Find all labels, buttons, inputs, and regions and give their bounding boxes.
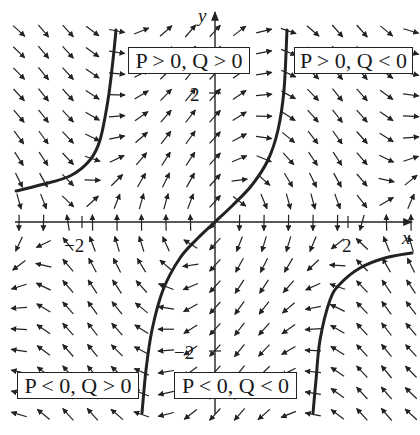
field-arrow xyxy=(284,173,292,187)
field-arrow xyxy=(11,284,26,289)
field-arrow xyxy=(333,110,343,123)
field-arrow xyxy=(261,194,267,209)
field-arrow xyxy=(135,112,148,121)
field-arrow xyxy=(381,387,391,399)
field-arrow xyxy=(184,304,198,312)
field-arrow xyxy=(188,194,194,209)
field-arrow xyxy=(405,409,417,420)
field-arrow xyxy=(357,409,368,421)
field-arrow xyxy=(158,413,174,417)
field-arrow xyxy=(334,173,342,187)
field-arrow xyxy=(306,283,321,290)
field-arrow xyxy=(41,194,47,209)
region-label-p-pos-q-pos: P > 0, Q > 0 xyxy=(128,47,250,74)
field-arrow xyxy=(14,89,25,101)
field-arrow xyxy=(86,48,99,57)
field-arrow xyxy=(282,325,295,334)
field-arrow xyxy=(39,131,48,144)
field-arrow xyxy=(331,388,344,397)
field-arrow xyxy=(406,302,416,315)
field-arrow xyxy=(382,344,392,356)
field-arrow xyxy=(357,174,367,186)
field-arrow xyxy=(37,346,50,356)
field-arrow xyxy=(183,284,198,290)
field-arrow xyxy=(305,392,321,394)
field-arrow xyxy=(158,371,174,374)
field-arrow xyxy=(111,345,122,356)
field-arrow xyxy=(262,236,267,251)
field-arrow xyxy=(109,136,125,139)
field-arrow xyxy=(357,281,368,293)
field-arrow xyxy=(63,259,73,271)
field-arrow xyxy=(311,194,315,209)
field-arrow xyxy=(308,131,318,144)
field-arrow xyxy=(286,194,290,209)
field-arrow xyxy=(184,410,197,420)
field-arrow xyxy=(407,258,414,272)
field-arrow xyxy=(333,89,343,101)
field-arrow xyxy=(305,306,321,309)
field-arrow xyxy=(260,258,267,272)
field-arrow xyxy=(87,196,99,207)
field-arrow xyxy=(184,325,197,334)
field-arrow xyxy=(233,90,246,99)
field-arrow xyxy=(38,67,48,79)
field-arrow xyxy=(236,258,244,272)
field-arrow xyxy=(357,153,367,165)
field-arrow xyxy=(90,237,96,252)
field-arrow xyxy=(282,303,294,313)
field-arrow xyxy=(63,25,74,37)
field-arrow xyxy=(405,175,417,185)
field-arrow xyxy=(110,155,124,162)
field-arrow xyxy=(307,89,318,100)
field-arrow xyxy=(357,132,368,144)
field-arrow xyxy=(382,280,391,293)
field-arrow xyxy=(135,91,149,99)
field-arrow xyxy=(408,194,414,209)
field-arrow xyxy=(357,195,367,208)
field-arrow xyxy=(331,410,344,420)
field-arrow xyxy=(63,408,74,420)
lower-right-curve xyxy=(313,253,412,413)
field-arrow xyxy=(281,411,296,417)
x-tick-label-neg2: −2 xyxy=(64,236,84,255)
field-arrow xyxy=(160,26,172,37)
field-arrow xyxy=(158,350,174,351)
field-arrow xyxy=(37,325,50,334)
field-arrow xyxy=(111,409,123,419)
field-arrow xyxy=(357,323,368,335)
field-arrow xyxy=(256,29,272,33)
field-arrow xyxy=(13,47,25,58)
field-arrow xyxy=(235,323,245,336)
field-arrow xyxy=(186,131,195,144)
field-arrow xyxy=(305,371,321,373)
field-arrow xyxy=(63,89,74,101)
field-arrow xyxy=(357,89,368,101)
field-arrow xyxy=(234,408,244,420)
field-arrow xyxy=(88,323,98,336)
field-arrow xyxy=(407,280,416,293)
field-arrow xyxy=(88,301,97,314)
field-arrow xyxy=(37,409,49,419)
field-arrow xyxy=(384,237,390,252)
field-arrow xyxy=(310,173,317,187)
field-arrow xyxy=(63,110,74,122)
field-arrow xyxy=(39,89,49,101)
field-arrow xyxy=(63,281,73,293)
field-arrow xyxy=(13,26,25,37)
field-arrow xyxy=(114,194,120,209)
field-arrow xyxy=(136,132,148,143)
field-arrow xyxy=(139,194,143,209)
field-arrow xyxy=(135,325,148,334)
field-arrow xyxy=(282,132,294,142)
field-arrow xyxy=(308,110,319,122)
field-arrow xyxy=(160,260,172,270)
field-arrow xyxy=(379,178,395,181)
field-arrow xyxy=(11,329,27,330)
x-axis-label: x xyxy=(402,228,410,247)
field-arrow xyxy=(305,329,321,330)
field-arrow xyxy=(259,323,270,335)
field-arrow xyxy=(330,304,344,311)
x-tick-label-2: 2 xyxy=(342,236,352,255)
field-arrow xyxy=(13,260,26,270)
